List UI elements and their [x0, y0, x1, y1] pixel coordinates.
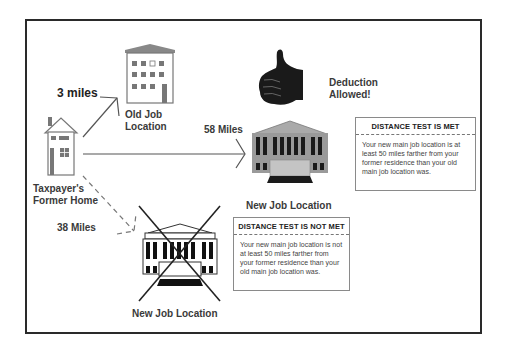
edge-label-old-job-distance: 3 miles: [57, 87, 98, 99]
old-job-label-line2: Location: [125, 121, 167, 133]
house-icon: [45, 117, 77, 175]
edge-label-new-job-not-met-distance: 38 Miles: [57, 222, 96, 234]
edge-home-to-old-job: [83, 97, 119, 137]
thumbs-up-icon: [259, 50, 303, 105]
home-label-line2: Former Home: [33, 195, 98, 207]
distance-test-not-met-header: DISTANCE TEST IS NOT MET: [234, 218, 349, 235]
old-job-label: Old Job Location: [125, 109, 167, 133]
new-job-not-met-label: New Job Location: [132, 308, 218, 320]
edge-label-new-job-met-distance: 58 Miles: [204, 124, 243, 136]
deduction-label-line2: Allowed!: [329, 89, 378, 101]
distance-test-met-box: DISTANCE TEST IS MET Your new main job l…: [355, 117, 476, 191]
deduction-allowed-label: Deduction Allowed!: [329, 77, 378, 101]
office-building-icon: [125, 44, 175, 103]
distance-test-met-text: Your new main job location is at least 5…: [356, 135, 475, 181]
distance-test-not-met-text: Your new main job location is not at lea…: [234, 235, 349, 281]
edge-home-to-new-job-met: [83, 139, 245, 168]
distance-test-met-header: DISTANCE TEST IS MET: [356, 118, 475, 135]
deduction-label-line1: Deduction: [329, 77, 378, 89]
home-label: Taxpayer's Former Home: [33, 183, 98, 207]
home-label-line1: Taxpayer's: [33, 183, 98, 195]
courthouse-building-icon: [252, 121, 328, 183]
distance-test-not-met-box: DISTANCE TEST IS NOT MET Your new main j…: [233, 217, 350, 291]
old-job-label-line1: Old Job: [125, 109, 167, 121]
new-job-met-label: New Job Location: [246, 200, 332, 212]
